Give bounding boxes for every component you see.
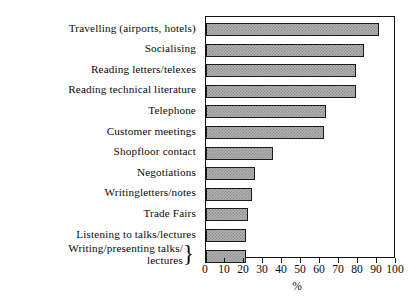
x-axis-tick-label: 50 [294,263,306,276]
label-brace-icon: } [183,242,194,265]
bar [206,229,246,242]
category-label: Trade Fairs [0,208,196,220]
bar [206,188,252,201]
category-label: Reading letters/telexes [0,64,196,76]
category-label: Listening to talks/lectures [0,229,196,241]
category-label: Writing/presenting talks/lectures [0,243,196,266]
x-axis-tick-label: 30 [256,263,268,276]
category-label: Shopfloor contact [0,146,196,158]
bar [206,23,379,36]
x-axis-tick-label: 0 [202,263,208,276]
category-label: Negotiations [0,167,196,179]
x-axis-tick-label: 80 [351,263,363,276]
x-axis-tick-label: 90 [370,263,382,276]
bar [206,167,255,180]
category-labels: Travelling (airports, hotels)Socialising… [0,16,196,258]
category-label: Telephone [0,105,196,117]
category-label: Writingletters/notes [0,187,196,199]
bar [206,126,324,139]
bar [206,208,248,221]
x-axis-tick-label: 20 [237,263,249,276]
x-axis-tick-label: 40 [275,263,287,276]
category-label: Socialising [0,43,196,55]
bar [206,44,364,57]
category-label: Customer meetings [0,126,196,138]
x-axis-tick-label: 60 [313,263,325,276]
x-axis-tick-label: 100 [386,263,403,276]
category-label: Travelling (airports, hotels) [0,23,196,35]
bar [206,64,356,77]
plot-area [205,16,395,258]
x-axis-tick-label: 70 [332,263,344,276]
x-axis: % 0102030405060708090100 [205,258,395,306]
bar [206,147,273,160]
x-axis-tick-label: 10 [218,263,230,276]
category-label: Reading technical literature [0,84,196,96]
x-axis-title: % [292,280,302,292]
bar-series [206,17,394,257]
bar [206,85,356,98]
bar [206,105,326,118]
bar-chart: Travelling (airports, hotels)Socialising… [0,0,420,306]
